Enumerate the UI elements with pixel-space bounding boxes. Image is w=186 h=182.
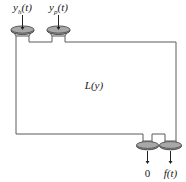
outlet-funnel-right [160,141,182,150]
outlet-funnel-left-top [137,142,159,149]
operator-label-close: ) [99,79,104,92]
outlet-funnel-left [137,141,159,150]
output-label-left-base: 0 [145,167,151,179]
output-label-right-arg: (t) [167,167,178,180]
operator-label: L(y) [84,79,104,92]
operator-label-base: L [84,79,91,91]
input-label-right-arg: (t) [58,1,69,14]
figure-container: yh(t) yp(t) L(y) 0 f(t) [0,0,186,182]
input-label-left-arg: (t) [22,1,33,14]
output-label-right: f(t) [164,167,178,180]
schematic-diagram: yh(t) yp(t) L(y) 0 f(t) [0,0,186,182]
input-label-right: yp(t) [48,1,68,16]
outlet-funnel-right-top [160,142,182,149]
output-label-left: 0 [145,167,151,179]
input-label-left: yh(t) [12,1,32,16]
